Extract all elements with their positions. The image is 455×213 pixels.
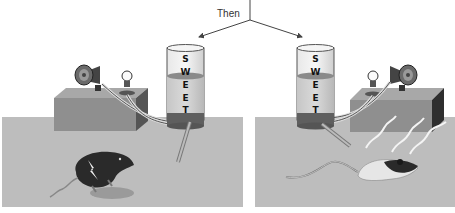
- right-panel: [255, 45, 455, 208]
- left-panel: [2, 45, 243, 208]
- diagram-graphics: [0, 0, 455, 213]
- left-cylinder-label: S W E E T: [167, 54, 204, 124]
- speaker-icon: [390, 65, 417, 91]
- letter: E: [297, 93, 334, 103]
- letter: T: [297, 105, 334, 115]
- right-cylinder-label: S W E E T: [297, 54, 334, 124]
- light-bulb-icon: [365, 71, 381, 97]
- letter: S: [167, 54, 204, 64]
- letter: S: [297, 54, 334, 64]
- then-connector: [199, 0, 302, 37]
- light-bulb-icon: [119, 71, 135, 96]
- letter: T: [167, 105, 204, 115]
- letter: W: [297, 67, 334, 77]
- letter: E: [297, 80, 334, 90]
- letter: E: [167, 80, 204, 90]
- speaker-icon: [75, 65, 101, 91]
- letter: W: [167, 67, 204, 77]
- letter: E: [167, 93, 204, 103]
